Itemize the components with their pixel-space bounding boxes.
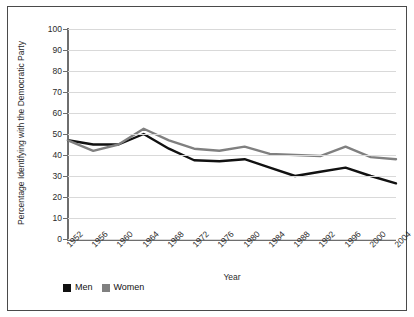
x-tick-label-1992: 1992 [317,230,336,249]
x-tick-label-2004: 2004 [393,230,412,249]
y-axis-title: Percentage Identifying with the Democrat… [16,33,26,233]
x-tick-label-2000: 2000 [368,230,387,249]
x-tick-label-1980: 1980 [242,230,261,249]
x-axis-title: Year [68,272,396,282]
chart-legend: MenWomen [63,283,144,292]
x-tick-label-1960: 1960 [115,230,134,249]
x-tick-label-group: 1952195619601964196819721976198019841988… [0,0,414,317]
x-tick-label-1964: 1964 [141,230,160,249]
legend-item-women: Women [102,283,145,292]
x-tick-label-1952: 1952 [65,230,84,249]
legend-label-women: Women [114,283,145,292]
x-tick-label-1976: 1976 [216,230,235,249]
legend-label-men: Men [75,283,93,292]
x-tick-label-1996: 1996 [343,230,362,249]
x-tick-label-1988: 1988 [292,230,311,249]
x-tick-label-1968: 1968 [166,230,185,249]
x-tick-label-1984: 1984 [267,230,286,249]
legend-item-men: Men [63,283,93,292]
x-tick-label-1956: 1956 [90,230,109,249]
legend-swatch-men [63,284,71,292]
legend-swatch-women [102,284,110,292]
chart-figure: 0102030405060708090100 19521956196019641… [0,0,414,317]
x-tick-label-1972: 1972 [191,230,210,249]
